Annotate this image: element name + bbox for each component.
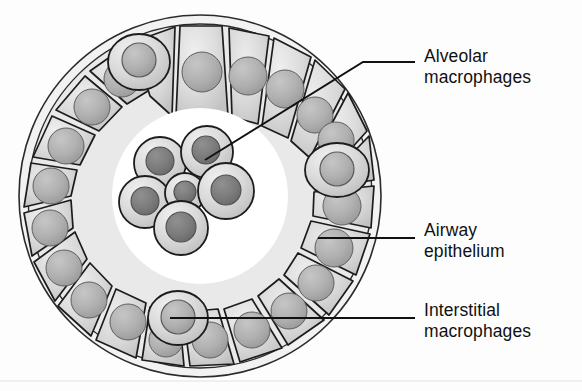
label-interstitial-line2: macrophages (424, 321, 531, 341)
epithelial-nucleus (315, 229, 353, 267)
epithelial-nucleus (110, 304, 146, 340)
interstitial-macrophage (108, 34, 170, 90)
epithelial-nucleus (74, 89, 110, 125)
label-alveolar-line2: macrophages (424, 67, 531, 87)
label-interstitial-macrophages: Interstitialmacrophages (424, 300, 531, 342)
epithelial-nucleus (229, 57, 267, 95)
epithelial-nucleus (182, 52, 222, 92)
epithelial-nucleus (46, 250, 82, 286)
label-airway-line1: Airway (424, 220, 477, 240)
epithelial-nucleus (33, 168, 69, 204)
label-alveolar-line1: Alveolar (424, 46, 488, 66)
label-interstitial-line1: Interstitial (424, 300, 500, 320)
epithelial-nucleus (271, 293, 307, 329)
epithelial-nucleus (32, 210, 68, 246)
label-airway-epithelium: Airwayepithelium (424, 220, 505, 262)
label-airway-line2: epithelium (424, 241, 505, 261)
alveolar-macrophage (154, 201, 208, 255)
alveolar-macrophage (198, 163, 254, 219)
epithelial-nucleus (298, 265, 334, 301)
epithelial-nucleus (48, 128, 84, 164)
epithelial-nucleus (71, 282, 107, 318)
interstitial-macrophage (305, 143, 369, 197)
label-alveolar-macrophages: Alveolarmacrophages (424, 46, 531, 88)
